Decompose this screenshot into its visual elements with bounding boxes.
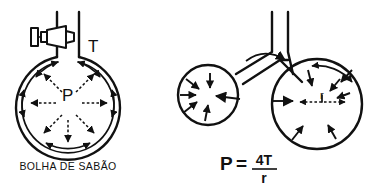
figure-root: T P BOLHA DE SABÃO <box>0 0 378 188</box>
left-panel-caption: BOLHA DE SABÃO <box>19 160 116 172</box>
radius-label: r <box>320 89 324 101</box>
soap-bubble-wall <box>16 57 120 160</box>
pressure-arrows <box>31 74 107 142</box>
formula-numerator: 4T <box>256 152 273 168</box>
soap-bubble-diagram: T P BOLHA DE SABÃO <box>0 0 378 188</box>
left-panel-group: T P BOLHA DE SABÃO <box>16 12 120 172</box>
formula-lhs: P <box>220 153 233 174</box>
tube-clamp-icon <box>31 26 74 48</box>
right-panel-group: r P = 4T r <box>178 12 362 186</box>
pressure-label: P <box>62 86 73 105</box>
tension-label: T <box>88 37 98 56</box>
formula-equals: = <box>236 153 247 174</box>
radius-marker: r <box>300 89 345 102</box>
large-bubble-arrows <box>272 70 352 140</box>
pressure-formula: P = 4T r <box>220 152 277 186</box>
y-tube <box>236 12 302 84</box>
formula-denominator: r <box>261 170 267 186</box>
